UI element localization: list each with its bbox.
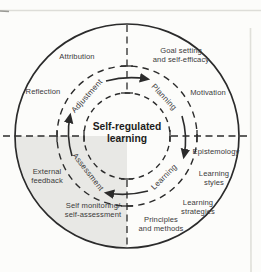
page-edge-right [251, 28, 252, 272]
label-external-feedback: External feedback [31, 168, 63, 186]
label-reflection: Reflection [26, 88, 61, 97]
label-learning-strategies: Learning strategies [181, 199, 215, 217]
label-attribution: Attribution [59, 53, 94, 62]
page-edge-mark [0, 11, 9, 12]
label-motivation: Motivation [190, 89, 226, 98]
self-regulated-learning-diagram: Self-regulated learning Attribution Goal… [0, 0, 261, 272]
label-learning-styles: Learning styles [199, 170, 229, 188]
label-self-monitoring: Self monitoring/ self-assessment [65, 202, 121, 220]
clockwise-arrow-top-icon [106, 78, 147, 81]
label-epistemology: Epistemology [193, 148, 240, 157]
label-principles-methods: Principles and methods [138, 216, 183, 234]
label-goal-setting: Goal setting and self-efficacy [153, 47, 209, 65]
center-label: Self-regulated learning [93, 121, 162, 145]
